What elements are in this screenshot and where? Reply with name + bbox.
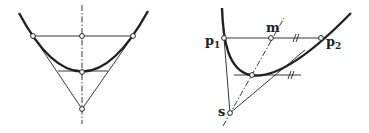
diagram-canvas: p1 m p2 s	[0, 0, 369, 133]
left-figure	[19, 5, 148, 124]
point-chord-left	[31, 34, 36, 39]
parabola-diagrams: p1 m p2 s	[0, 0, 369, 133]
point-apex	[80, 107, 85, 112]
point-m	[269, 36, 274, 41]
point-p2	[319, 36, 324, 41]
point-chord-right	[131, 34, 136, 39]
point-s	[228, 111, 233, 116]
parabola-curve	[19, 11, 148, 72]
label-p1: p1	[205, 33, 220, 50]
point-vertex	[80, 70, 85, 75]
point-tangent	[250, 73, 255, 78]
label-s: s	[218, 104, 225, 119]
point-p1	[222, 36, 227, 41]
label-p2: p2	[326, 34, 341, 51]
tangent-p2-s	[230, 50, 305, 113]
label-m: m	[266, 20, 280, 35]
right-figure	[222, 8, 351, 126]
point-chord-mid	[80, 34, 85, 39]
